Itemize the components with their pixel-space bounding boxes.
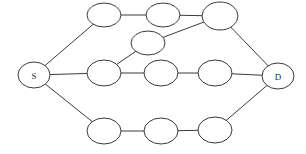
edge-uppermiddle1-middle1 bbox=[117, 51, 136, 64]
node-bottom-3-shape bbox=[198, 117, 232, 143]
node-top-3-shape bbox=[202, 2, 238, 30]
node-upper-middle-1[interactable] bbox=[131, 31, 165, 55]
node-top-2[interactable] bbox=[146, 3, 180, 27]
node-top-2-shape bbox=[146, 3, 180, 27]
node-middle-3-shape bbox=[198, 60, 232, 86]
node-bottom-2-shape bbox=[144, 118, 178, 144]
edge-middle3-d bbox=[232, 74, 262, 75]
edge-s-bottom1 bbox=[45, 84, 92, 121]
node-destination-d[interactable]: D bbox=[262, 63, 294, 89]
node-top-3[interactable] bbox=[202, 2, 238, 30]
graph-diagram: SD bbox=[0, 0, 306, 154]
graph-svg-surface: SD bbox=[0, 0, 306, 154]
node-layer: SD bbox=[18, 2, 294, 144]
node-source-s-label: S bbox=[31, 71, 36, 81]
edge-s-top1 bbox=[45, 24, 93, 65]
node-bottom-1[interactable] bbox=[87, 118, 121, 144]
node-source-s[interactable]: S bbox=[18, 62, 50, 88]
node-bottom-2[interactable] bbox=[144, 118, 178, 144]
node-destination-d-label: D bbox=[275, 72, 282, 82]
edge-bottom3-d bbox=[226, 85, 267, 120]
edge-top3-d bbox=[231, 27, 268, 66]
node-top-1[interactable] bbox=[87, 3, 121, 27]
node-middle-3[interactable] bbox=[198, 60, 232, 86]
node-upper-middle-1-shape bbox=[131, 31, 165, 55]
node-middle-1-shape bbox=[87, 60, 121, 86]
node-bottom-3[interactable] bbox=[198, 117, 232, 143]
node-top-1-shape bbox=[87, 3, 121, 27]
node-middle-2-shape bbox=[144, 60, 178, 86]
node-middle-1[interactable] bbox=[87, 60, 121, 86]
node-middle-2[interactable] bbox=[144, 60, 178, 86]
node-bottom-1-shape bbox=[87, 118, 121, 144]
edge-s-middle1 bbox=[50, 73, 87, 74]
